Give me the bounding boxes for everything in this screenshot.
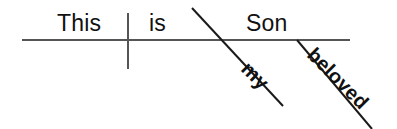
word-subject-this: This	[57, 12, 101, 35]
sentence-diagram: This is Son my beloved	[0, 0, 397, 129]
word-verb-is: is	[149, 12, 166, 35]
word-complement-son: Son	[246, 12, 288, 35]
